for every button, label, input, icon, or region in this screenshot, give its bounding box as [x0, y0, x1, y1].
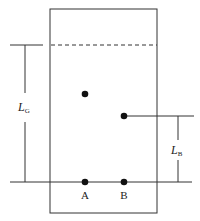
- diagram-canvas: LG LB A B: [0, 0, 200, 221]
- center-of-buoyancy-dot: [121, 113, 128, 120]
- point-a-dot: [82, 179, 89, 186]
- lg-label: LG: [17, 100, 30, 115]
- lb-label: LB: [170, 143, 183, 158]
- point-b-label: B: [120, 189, 127, 201]
- point-b-dot: [121, 179, 128, 186]
- center-of-gravity-dot: [82, 91, 89, 98]
- point-a-label: A: [81, 189, 89, 201]
